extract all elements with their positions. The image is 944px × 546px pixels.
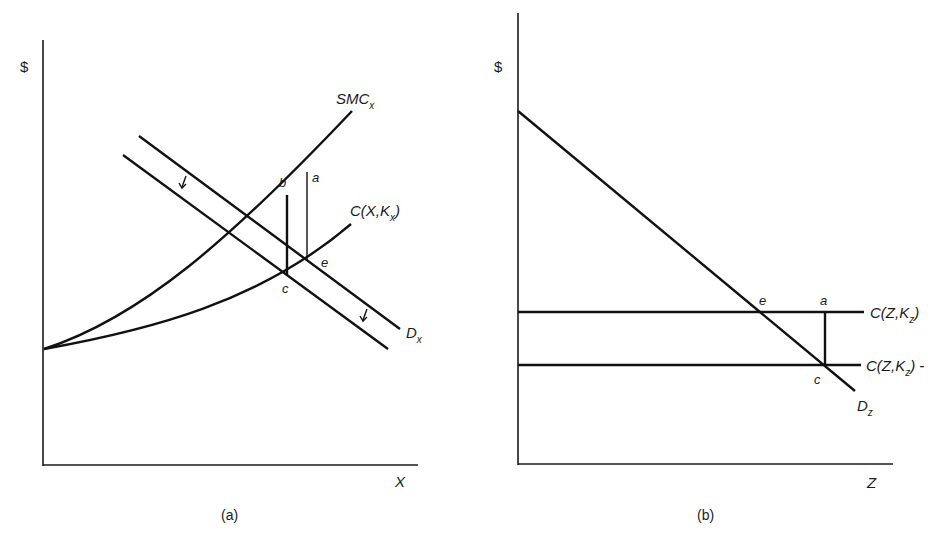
demand-z-label: Dz xyxy=(857,397,873,418)
caption-b: (b) xyxy=(697,507,714,523)
point-e-label-b: e xyxy=(759,293,766,308)
demand-line-upper xyxy=(139,136,400,329)
point-a-label: a xyxy=(312,170,319,185)
y-axis-label-b: $ xyxy=(494,58,503,75)
point-a-label-b: a xyxy=(820,293,827,308)
demand-line-z xyxy=(518,111,855,391)
caption-a: (a) xyxy=(221,507,238,523)
point-c-label-b: c xyxy=(814,372,821,387)
smc-label: SMCx xyxy=(336,90,375,111)
panel-a: $ X SMCx C(X,Kx) Dx a xyxy=(20,40,423,523)
point-b-label: b xyxy=(279,175,286,190)
point-e-label: e xyxy=(321,255,328,270)
point-c-label: c xyxy=(282,281,289,296)
x-axis-label-a: X xyxy=(394,473,406,490)
smc-curve xyxy=(44,111,352,349)
shift-arrow-icon-lower xyxy=(360,309,367,321)
cost-curve-x-label: C(X,Kx) xyxy=(350,202,400,223)
demand-x-label: Dx xyxy=(406,324,423,345)
panel-b: $ Z C(Z,Kz) C(Z,Kz) - Dz e a c (b) xyxy=(494,13,924,523)
cost-lower-label: C(Z,Kz) - xyxy=(866,357,924,378)
cost-upper-label: C(Z,Kz) xyxy=(870,304,919,325)
shift-arrow-icon-upper xyxy=(179,176,186,188)
x-axis-label-b: Z xyxy=(866,474,877,491)
demand-line-lower xyxy=(123,155,388,349)
y-axis-label-a: $ xyxy=(20,58,29,75)
